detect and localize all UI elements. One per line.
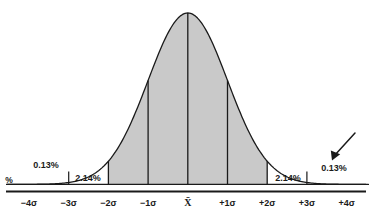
axis-label-minus-3-sigma: −3σ xyxy=(60,198,76,208)
tail-pointer-arrow xyxy=(331,133,355,161)
axis-label-plus-1-sigma: +1σ xyxy=(219,198,235,208)
axis-label-minus-2-sigma: −2σ xyxy=(100,198,116,208)
axis-label-mean: X̄ xyxy=(184,197,192,208)
axis-label-minus-1-sigma: −1σ xyxy=(140,198,156,208)
pct-label-left-inner: 2.14% xyxy=(75,173,101,183)
percent-unit-label: % xyxy=(5,175,13,185)
axis-label-minus-4-sigma: −4σ xyxy=(21,198,37,208)
pct-label-right-outer: 0.13% xyxy=(321,163,347,173)
axis-label-plus-2-sigma: +2σ xyxy=(259,198,275,208)
axis-label-plus-4-sigma: +4σ xyxy=(338,198,354,208)
pct-label-right-inner: 2.14% xyxy=(275,173,301,183)
pct-label-left-outer: 0.13% xyxy=(33,160,59,170)
normal-distribution-chart: % 0.13% 2.14% 2.14% 0.13% −4σ −3σ −2σ −1… xyxy=(0,0,372,221)
axis-label-plus-3-sigma: +3σ xyxy=(299,198,315,208)
